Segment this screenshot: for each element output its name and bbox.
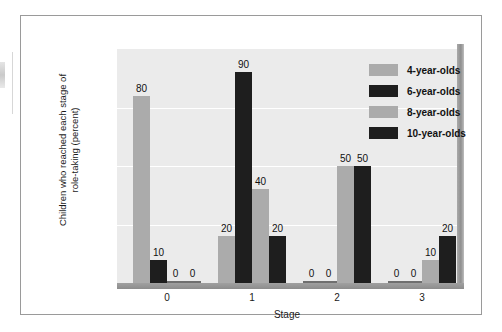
legend-item: 6-year-olds — [369, 81, 481, 101]
bar-value-label: 90 — [229, 59, 258, 70]
bar — [218, 236, 235, 283]
bar-value-label: 10 — [144, 247, 173, 258]
legend-label: 4-year-olds — [407, 65, 460, 76]
bar-value-label: 0 — [178, 268, 207, 279]
bar — [354, 166, 371, 283]
scan-artifact — [0, 62, 5, 88]
bar-value-label: 40 — [246, 176, 275, 187]
bar-value-label: 20 — [263, 223, 292, 234]
legend-item: 8-year-olds — [369, 102, 481, 122]
bar — [422, 260, 439, 283]
legend-swatch — [369, 64, 398, 76]
bar — [252, 189, 269, 283]
legend-label: 10-year-olds — [407, 128, 466, 139]
gridline — [117, 166, 457, 167]
x-tick-label: 3 — [392, 292, 452, 303]
legend-swatch — [369, 85, 398, 97]
legend-label: 8-year-olds — [407, 107, 460, 118]
x-tick-label: 1 — [222, 292, 282, 303]
bar-value-label: 20 — [433, 223, 462, 234]
legend: 4-year-olds6-year-olds8-year-olds10-year… — [369, 60, 481, 144]
legend-swatch — [369, 106, 398, 118]
legend-item: 4-year-olds — [369, 60, 481, 80]
bar — [337, 166, 354, 283]
legend-item: 10-year-olds — [369, 123, 481, 143]
bar — [439, 236, 456, 283]
legend-label: 6-year-olds — [407, 86, 460, 97]
legend-swatch — [369, 127, 398, 139]
figure: Children who reached each stage of role-… — [0, 0, 502, 332]
page-edge-line — [12, 52, 13, 114]
y-axis-title: Children who reached each stage of role-… — [57, 45, 81, 255]
bar-value-label: 50 — [348, 153, 377, 164]
x-tick-label: 0 — [137, 292, 197, 303]
plot-floor — [117, 283, 464, 289]
bar-value-label: 80 — [127, 83, 156, 94]
x-axis-title: Stage — [117, 309, 457, 320]
chart-frame: Children who reached each stage of role-… — [20, 15, 482, 315]
bar — [269, 236, 286, 283]
x-tick-label: 2 — [307, 292, 367, 303]
